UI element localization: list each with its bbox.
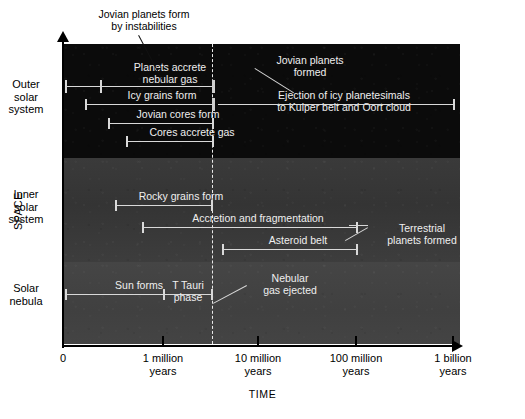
event-label-asteroid-belt: Asteroid belt [238, 235, 358, 247]
event-label-rocky-grains-form: Rocky grains form [121, 191, 241, 203]
event-label-line2: nebular gas [85, 74, 255, 86]
event-bar-cores-accrete-gas [126, 141, 213, 142]
event-label-icy-grains-form: Icy grains form [107, 90, 217, 102]
annotation-terrestrial-planets-formed: Terrestrial planets formed [367, 222, 460, 246]
x-label-line1: 10 million [203, 352, 313, 365]
y-label-line1: Inner [0, 188, 55, 201]
y-axis-label-outer-solar-system: Outer solar system [0, 78, 55, 116]
event-cap-start [115, 200, 117, 211]
event-label-cores-accrete-gas: Cores accrete gas [133, 127, 251, 139]
x-label-line1: 1 billion [398, 352, 508, 365]
x-label-line2: years [203, 365, 313, 378]
x-label-line2: years [301, 365, 411, 378]
event-bar-rocky-grains-form [115, 205, 212, 206]
event-label-planets-accrete-nebular-gas: Planets accrete nebular gas Planets accr… [85, 62, 255, 85]
event-label-line2: phase [164, 292, 212, 304]
y-axis-line [62, 40, 64, 348]
plot-area: Planets accrete nebular gas Planets accr… [63, 44, 460, 344]
annotation-line1: Terrestrial [367, 222, 460, 234]
event-cap-start [85, 99, 87, 110]
y-label-line3: system [0, 103, 55, 116]
event-label-accretion-and-fragmentation: Accretion and fragmentation [163, 213, 353, 225]
x-axis-title: TIME [0, 388, 525, 400]
event-cap-start [142, 222, 144, 233]
event-label-t-tauri-phase: T Tauri phase [164, 280, 212, 303]
event-bar-jovian-cores-form [108, 123, 213, 124]
x-axis-label-10-million-years: 10 million years [203, 352, 313, 377]
x-label-line1: 0 [8, 352, 118, 365]
event-cap-end [212, 136, 214, 147]
event-cap-start [126, 136, 128, 147]
figure-canvas: Planets accrete nebular gas Planets accr… [0, 0, 525, 419]
event-cap-start [65, 80, 67, 93]
y-axis-label-solar-nebula: Solar nebula [0, 282, 55, 307]
event-bar-accretion-and-fragmentation [142, 227, 357, 228]
annotation-line1: Jovian planets [255, 54, 365, 66]
x-axis-tick-100m [355, 336, 357, 347]
event-bar-planets-accrete-nebular-gas [65, 86, 213, 87]
event-bar-ejection-of-icy-planetesimals [218, 104, 454, 105]
x-label-line2: years [108, 365, 218, 378]
x-axis-label-100-million-years: 100 million years [301, 352, 411, 377]
event-bar-icy-grains-form [85, 104, 213, 105]
x-label-line1: 1 million [108, 352, 218, 365]
y-label-line2: solar [0, 91, 55, 104]
annotation-line1: Nebular [247, 272, 333, 284]
x-axis-tick-1b [452, 336, 454, 347]
annotation-nebular-gas-ejected: Nebular gas ejected [247, 272, 333, 296]
event-cap-start [65, 289, 67, 300]
annotation-line2: planets formed [367, 234, 460, 246]
event-label-ejection-of-icy-planetesimals: Ejection of icy planetesimals to Kuiper … [264, 90, 424, 113]
y-label-line1: Outer [0, 78, 55, 91]
x-label-line1: 100 million [301, 352, 411, 365]
x-axis-label-0: 0 [8, 352, 118, 365]
event-bar-asteroid-belt [222, 249, 357, 250]
annotation-line1: Jovian planets form [74, 8, 214, 20]
x-axis-label-1-million-years: 1 million years [108, 352, 218, 377]
x-label-line2: years [398, 365, 508, 378]
annotation-line2: formed [255, 66, 365, 78]
event-cap-mid [100, 80, 102, 93]
leader-line-terrestrial-h [349, 225, 368, 226]
x-axis-label-1-billion-years: 1 billion years [398, 352, 508, 377]
event-label-line1: Ejection of icy planetesimals [264, 90, 424, 102]
y-label-line1: Solar [0, 282, 55, 295]
event-cap-end [453, 99, 455, 110]
event-cap-start [108, 118, 110, 129]
y-axis-title: SPACE [12, 176, 24, 246]
event-cap-end [211, 200, 213, 211]
annotation-line2: gas ejected [247, 284, 333, 296]
x-axis-tick-10m [257, 336, 259, 347]
event-label-jovian-cores-form: Jovian cores form [118, 109, 238, 121]
y-label-line3: system [0, 213, 55, 226]
y-label-line2: solar [0, 201, 55, 214]
event-cap-end [356, 222, 358, 233]
event-cap-start [222, 244, 224, 255]
event-cap-end [356, 244, 358, 255]
y-axis-label-inner-solar-system: Inner solar system [0, 188, 55, 226]
annotation-jovian-planets-formed: Jovian planets formed [255, 54, 365, 78]
event-label-line1: T Tauri [164, 280, 212, 292]
annotation-line2: by instabilities [74, 20, 214, 32]
y-label-line2: nebula [0, 295, 55, 308]
event-label-line1: Planets accrete [85, 62, 255, 74]
x-axis-tick-1m [162, 336, 164, 347]
x-axis-tick-0 [62, 336, 64, 347]
annotation-jovian-planets-form-by-instabilities: Jovian planets form by instabilities [74, 8, 214, 32]
